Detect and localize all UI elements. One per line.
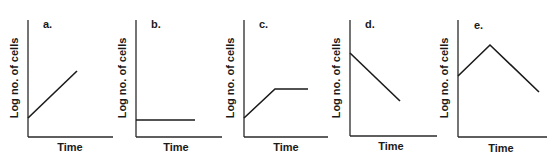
panel-b: b. Log no. of cells Time <box>116 18 222 153</box>
x-axis-title: Time <box>273 141 298 153</box>
panel-a: a. Log no. of cells Time <box>8 18 113 153</box>
growth-curve <box>350 53 400 101</box>
y-axis-title: Log no. of cells <box>224 38 236 119</box>
x-axis-title: Time <box>57 141 82 153</box>
panel-d: d. Log no. of cells Time <box>330 18 437 152</box>
y-axis-title: Log no. of cells <box>116 38 128 119</box>
growth-curve <box>28 71 77 118</box>
x-axis-title: Time <box>488 142 513 154</box>
panel-label: b. <box>151 18 161 30</box>
growth-curve <box>244 89 308 118</box>
growth-curves-figure: a. Log no. of cells Time b. Log no. of c… <box>0 0 556 161</box>
growth-curve <box>458 45 539 92</box>
x-axis-title: Time <box>378 140 403 152</box>
y-axis-title: Log no. of cells <box>438 38 450 119</box>
panel-c: c. Log no. of cells Time <box>224 18 328 153</box>
x-axis-title: Time <box>163 141 188 153</box>
y-axis-title: Log no. of cells <box>330 38 342 119</box>
panel-label: d. <box>365 18 375 30</box>
panel-label: a. <box>43 18 52 30</box>
y-axis-title: Log no. of cells <box>8 38 20 119</box>
panel-e: e. Log no. of cells Time <box>438 19 547 154</box>
panel-label: e. <box>474 19 483 31</box>
panel-label: c. <box>259 18 268 30</box>
